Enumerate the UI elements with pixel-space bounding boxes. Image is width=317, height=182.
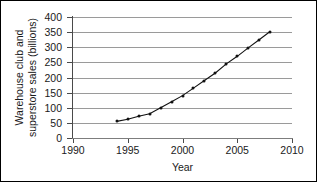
y-axis-title: Warehouse club and superstore sales (bil… xyxy=(9,17,43,138)
data-point-1999 xyxy=(170,100,173,103)
x-axis-title: Year xyxy=(73,161,292,173)
data-point-2005 xyxy=(236,55,239,58)
gridline-0 xyxy=(73,138,292,139)
x-tick-label-2010: 2010 xyxy=(280,145,303,156)
data-point-2002 xyxy=(203,79,206,82)
y-tick-label-350: 350 xyxy=(44,27,62,37)
y-axis-title-line-2: superstore sales (billions) xyxy=(26,18,39,137)
data-point-1998 xyxy=(159,106,162,109)
x-tick-label-1990: 1990 xyxy=(61,145,84,156)
y-axis-title-line-1: Warehouse club and xyxy=(13,18,26,137)
plot-area xyxy=(73,17,292,138)
data-point-1995 xyxy=(126,118,129,121)
y-tick-label-0: 0 xyxy=(56,133,62,143)
data-series-line xyxy=(73,17,292,138)
data-point-2007 xyxy=(258,38,261,41)
data-point-1996 xyxy=(137,115,140,118)
data-point-2008 xyxy=(269,30,272,33)
y-tick-label-150: 150 xyxy=(44,88,62,98)
data-point-2001 xyxy=(192,87,195,90)
x-tick-label-2005: 2005 xyxy=(226,145,249,156)
y-tick-label-100: 100 xyxy=(44,103,62,113)
data-point-2000 xyxy=(181,94,184,97)
data-point-1994 xyxy=(115,120,118,123)
data-point-2006 xyxy=(247,46,250,49)
chart-figure: Warehouse club and superstore sales (bil… xyxy=(0,0,317,182)
x-tick-label-1995: 1995 xyxy=(116,145,139,156)
y-tick-label-400: 400 xyxy=(44,12,62,22)
data-point-1997 xyxy=(148,112,151,115)
data-point-2004 xyxy=(225,62,228,65)
y-tick-label-300: 300 xyxy=(44,42,62,52)
y-tick-label-250: 250 xyxy=(44,57,62,67)
data-point-2003 xyxy=(214,71,217,74)
y-tick-label-200: 200 xyxy=(44,73,62,83)
y-tick-label-50: 50 xyxy=(50,118,62,128)
x-tick-label-2000: 2000 xyxy=(171,145,194,156)
